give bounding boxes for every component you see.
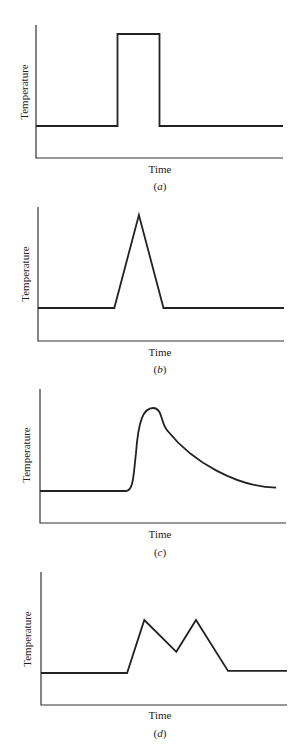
y-axis-label: Temperature <box>21 599 33 679</box>
x-axis-label: Time <box>120 709 200 721</box>
panel-caption: (d) <box>130 727 190 739</box>
temperature-curve <box>41 620 287 673</box>
plot-d <box>0 0 301 753</box>
